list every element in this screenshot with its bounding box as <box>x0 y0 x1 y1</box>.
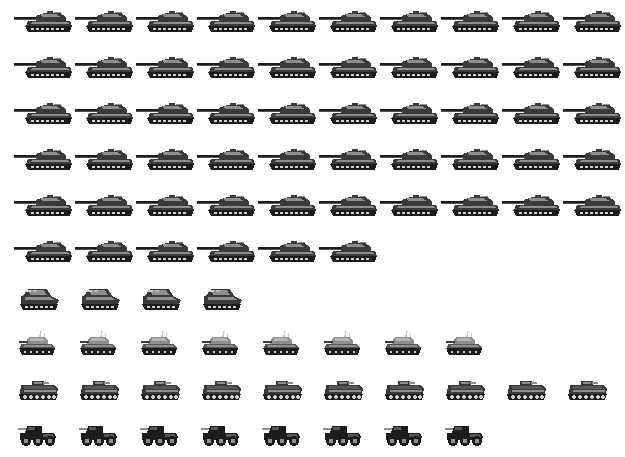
tracked-apc-icon <box>504 378 565 404</box>
pictogram-row-main-battle-tanks <box>14 146 625 176</box>
wheeled-armored-car-icon <box>382 422 443 448</box>
wheeled-armored-car-icon <box>260 422 321 448</box>
pictogram-row-main-battle-tanks <box>14 54 625 84</box>
main-battle-tank-icon <box>563 8 624 38</box>
main-battle-tank-icon <box>136 146 197 176</box>
main-battle-tank-icon <box>441 192 502 222</box>
main-battle-tank-icon <box>502 192 563 222</box>
main-battle-tank-icon <box>197 8 258 38</box>
tracked-apc-icon <box>16 378 77 404</box>
main-battle-tank-icon <box>136 100 197 130</box>
main-battle-tank-icon <box>502 8 563 38</box>
light-tank-icon <box>441 330 502 362</box>
main-battle-tank-icon <box>502 100 563 130</box>
pictogram-row-tracked-apcs <box>16 378 625 404</box>
main-battle-tank-icon <box>75 146 136 176</box>
main-battle-tank-icon <box>75 100 136 130</box>
main-battle-tank-icon <box>563 100 624 130</box>
main-battle-tank-icon <box>563 192 624 222</box>
main-battle-tank-icon <box>258 54 319 84</box>
main-battle-tank-icon <box>14 192 75 222</box>
main-battle-tank-icon <box>380 192 441 222</box>
tracked-apc-icon <box>77 378 138 404</box>
light-tank-icon <box>136 330 197 362</box>
light-tank-icon <box>258 330 319 362</box>
main-battle-tank-icon <box>14 8 75 38</box>
tracked-apc-icon <box>382 378 443 404</box>
light-tank-icon <box>380 330 441 362</box>
main-battle-tank-icon <box>563 54 624 84</box>
main-battle-tank-icon <box>319 54 380 84</box>
main-battle-tank-icon <box>197 54 258 84</box>
main-battle-tank-icon <box>441 100 502 130</box>
main-battle-tank-icon <box>14 54 75 84</box>
main-battle-tank-icon <box>502 146 563 176</box>
wheeled-armored-car-icon <box>138 422 199 448</box>
light-tank-icon <box>14 330 75 362</box>
main-battle-tank-icon <box>197 192 258 222</box>
wheeled-armored-car-icon <box>199 422 260 448</box>
wheeled-armored-car-icon <box>443 422 504 448</box>
main-battle-tank-icon <box>75 238 136 268</box>
main-battle-tank-icon <box>75 192 136 222</box>
clipped-header-text <box>8 0 608 3</box>
main-battle-tank-icon <box>441 146 502 176</box>
pictogram-row-wheeled-armored-cars <box>16 422 625 448</box>
pictogram-row-main-battle-tanks <box>14 8 625 38</box>
tracked-apc-icon <box>321 378 382 404</box>
self-propelled-gun-icon <box>200 285 261 313</box>
main-battle-tank-icon <box>136 238 197 268</box>
main-battle-tank-icon <box>380 100 441 130</box>
pictogram-row-light-tanks <box>14 330 625 362</box>
tracked-apc-icon <box>138 378 199 404</box>
wheeled-armored-car-icon <box>321 422 382 448</box>
main-battle-tank-icon <box>197 100 258 130</box>
main-battle-tank-icon <box>319 238 380 268</box>
tracked-apc-icon <box>443 378 504 404</box>
wheeled-armored-car-icon <box>77 422 138 448</box>
main-battle-tank-icon <box>380 54 441 84</box>
pictogram-row-main-battle-tanks <box>14 238 625 268</box>
main-battle-tank-icon <box>258 8 319 38</box>
main-battle-tank-icon <box>75 8 136 38</box>
main-battle-tank-icon <box>319 8 380 38</box>
main-battle-tank-icon <box>319 192 380 222</box>
light-tank-icon <box>197 330 258 362</box>
main-battle-tank-icon <box>197 238 258 268</box>
main-battle-tank-icon <box>502 54 563 84</box>
tracked-apc-icon <box>260 378 321 404</box>
main-battle-tank-icon <box>258 238 319 268</box>
main-battle-tank-icon <box>319 100 380 130</box>
main-battle-tank-icon <box>319 146 380 176</box>
main-battle-tank-icon <box>14 146 75 176</box>
main-battle-tank-icon <box>380 146 441 176</box>
light-tank-icon <box>319 330 380 362</box>
main-battle-tank-icon <box>197 146 258 176</box>
main-battle-tank-icon <box>258 100 319 130</box>
main-battle-tank-icon <box>441 8 502 38</box>
wheeled-armored-car-icon <box>16 422 77 448</box>
self-propelled-gun-icon <box>78 285 139 313</box>
self-propelled-gun-icon <box>17 285 78 313</box>
main-battle-tank-icon <box>258 192 319 222</box>
main-battle-tank-icon <box>136 54 197 84</box>
pictogram-row-self-propelled-guns <box>17 285 625 313</box>
light-tank-icon <box>75 330 136 362</box>
main-battle-tank-icon <box>75 54 136 84</box>
main-battle-tank-icon <box>136 192 197 222</box>
tracked-apc-icon <box>565 378 625 404</box>
main-battle-tank-icon <box>258 146 319 176</box>
main-battle-tank-icon <box>14 100 75 130</box>
tracked-apc-icon <box>199 378 260 404</box>
main-battle-tank-icon <box>563 146 624 176</box>
main-battle-tank-icon <box>14 238 75 268</box>
main-battle-tank-icon <box>380 8 441 38</box>
pictogram-row-main-battle-tanks <box>14 192 625 222</box>
self-propelled-gun-icon <box>139 285 200 313</box>
main-battle-tank-icon <box>441 54 502 84</box>
main-battle-tank-icon <box>136 8 197 38</box>
pictogram-row-main-battle-tanks <box>14 100 625 130</box>
